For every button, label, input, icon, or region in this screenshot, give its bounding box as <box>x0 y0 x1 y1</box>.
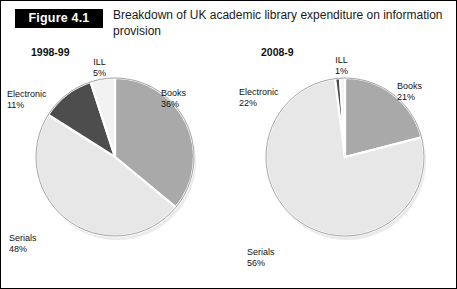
figure-number-badge: Figure 4.1 <box>15 9 103 28</box>
pie-label-electronic-left-name: Electronic <box>7 89 47 99</box>
pie-label-electronic-left-pct: 11% <box>7 100 47 111</box>
pie-label-ill-left: ILL 5% <box>93 57 106 79</box>
pie-label-ill-right: ILL 1% <box>335 55 348 77</box>
figure-header: Figure 4.1 Breakdown of UK academic libr… <box>1 1 457 47</box>
pie-label-electronic-right-pct: 22% <box>239 98 279 109</box>
figure-container: Figure 4.1 Breakdown of UK academic libr… <box>0 0 457 289</box>
pie-label-serials-left: Serials 48% <box>9 233 37 255</box>
pie-label-electronic-right: Electronic 22% <box>239 87 279 109</box>
pie-label-books-right-pct: 21% <box>397 92 422 103</box>
pie-label-electronic-left: Electronic 11% <box>7 89 47 111</box>
pie-label-books-left: Books 36% <box>161 88 186 110</box>
chart-year-label-left: 1998-99 <box>31 46 70 58</box>
pie-label-books-left-pct: 36% <box>161 99 186 110</box>
pie-label-serials-right-name: Serials <box>247 247 275 257</box>
pie-label-ill-left-name: ILL <box>93 57 106 67</box>
pie-label-serials-right: Serials 56% <box>247 247 275 269</box>
pie-label-electronic-right-name: Electronic <box>239 87 279 97</box>
pie-label-ill-right-pct: 1% <box>335 66 348 77</box>
pie-label-serials-right-pct: 56% <box>247 258 275 269</box>
chart-panel-1998-99: 1998-99 ILL 5% <box>1 43 229 289</box>
pie-label-books-left-name: Books <box>161 88 186 98</box>
figure-title: Breakdown of UK academic library expendi… <box>113 7 443 39</box>
chart-panel-2008-9: 2008-9 ILL 1% <box>229 43 457 289</box>
chart-year-label-right: 2008-9 <box>261 46 294 58</box>
pie-label-books-right: Books 21% <box>397 81 422 103</box>
pie-label-serials-left-pct: 48% <box>9 244 37 255</box>
pie-label-ill-left-pct: 5% <box>93 68 106 79</box>
pie-label-serials-left-name: Serials <box>9 233 37 243</box>
pie-label-books-right-name: Books <box>397 81 422 91</box>
pie-label-ill-right-name: ILL <box>335 55 348 65</box>
